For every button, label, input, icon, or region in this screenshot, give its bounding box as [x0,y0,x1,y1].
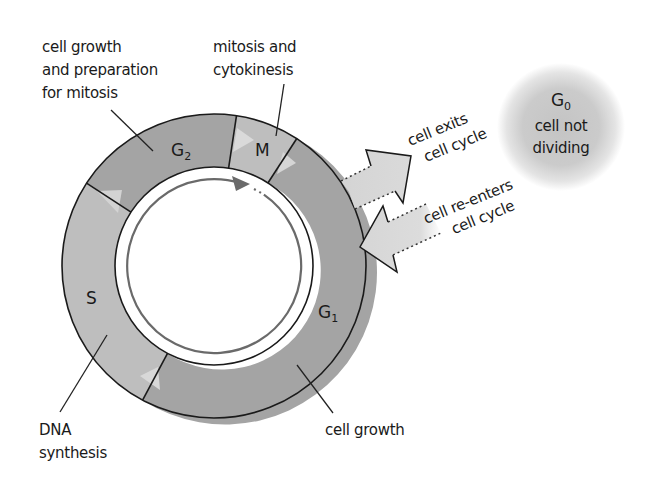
g0-line-2: dividing [532,139,589,157]
s-desc-line-2: synthesis [39,444,107,462]
g0-line-1: cell not [535,117,588,135]
label-exit: cell exits cell cycle [405,105,490,169]
g2-desc-line-1: cell growth [42,38,121,56]
g0-state: G0 cell not dividing [497,63,625,191]
phase-label-m: M [255,140,270,160]
g2-desc-line-3: for mitosis [42,84,118,102]
label-reenter: cell re-enters cell cycle [421,175,523,246]
m-desc-line-2: cytokinesis [213,61,294,79]
ring-inner-edge [115,167,313,365]
g2-desc-line-2: and preparation [42,61,158,79]
s-leader-line [60,335,107,412]
cell-cycle-diagram: G0 cell not dividing [0,0,647,499]
g1-desc-line-1: cell growth [325,421,404,439]
phase-label-s: S [86,288,97,308]
cycle-ring [62,114,377,424]
m-desc-line-1: mitosis and [213,38,296,56]
s-desc-line-1: DNA [39,421,72,439]
